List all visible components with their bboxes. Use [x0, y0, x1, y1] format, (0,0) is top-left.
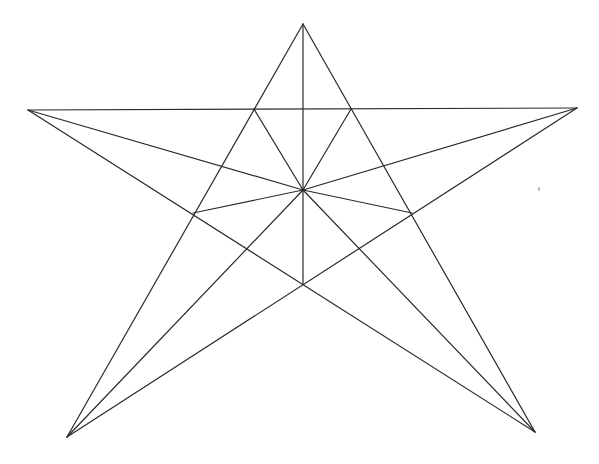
stray-mark	[538, 187, 540, 191]
line-center-to-inner-right	[303, 190, 412, 213]
line-top-to-bottom-left	[67, 24, 303, 437]
line-center-to-bottom-right	[303, 190, 535, 432]
line-center-to-bottom-left	[67, 190, 303, 437]
line-top-to-bottom-right	[303, 24, 535, 432]
star-lines	[28, 24, 577, 437]
line-center-to-inner-left	[193, 190, 303, 213]
star-diagram	[0, 0, 599, 464]
line-left-to-bottom-right	[28, 110, 535, 432]
